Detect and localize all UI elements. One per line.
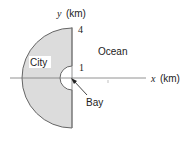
bay-pointer-line bbox=[74, 81, 87, 95]
outer-radius-label: 4 bbox=[78, 24, 83, 35]
bay-label: Bay bbox=[86, 97, 103, 108]
city-bay-diagram: y (km) x (km) 4 1 City Ocean Bay bbox=[0, 0, 192, 144]
city-label: City bbox=[30, 57, 47, 68]
inner-radius-label: 1 bbox=[79, 62, 84, 73]
y-axis-label: y (km) bbox=[56, 8, 86, 19]
x-axis-label: x (km) bbox=[150, 73, 180, 84]
ocean-label: Ocean bbox=[98, 46, 127, 57]
